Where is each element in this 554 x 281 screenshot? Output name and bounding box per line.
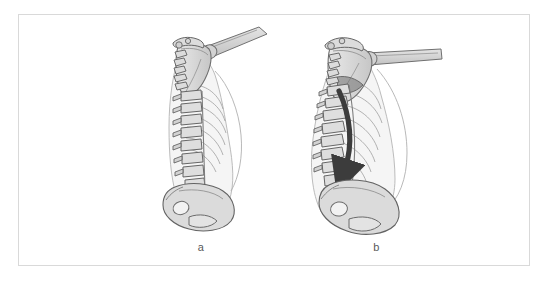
figure-root: a	[0, 0, 554, 281]
spine-illustration-b	[281, 19, 456, 237]
spine-illustration-a	[119, 19, 279, 237]
panel-b-caption: b	[281, 241, 464, 253]
figure-frame: a	[18, 14, 530, 266]
figure-panel-a: a	[119, 15, 279, 267]
figure-panel-b: b	[281, 15, 456, 267]
panel-a-caption: a	[119, 241, 281, 253]
humerus-b	[360, 49, 442, 67]
